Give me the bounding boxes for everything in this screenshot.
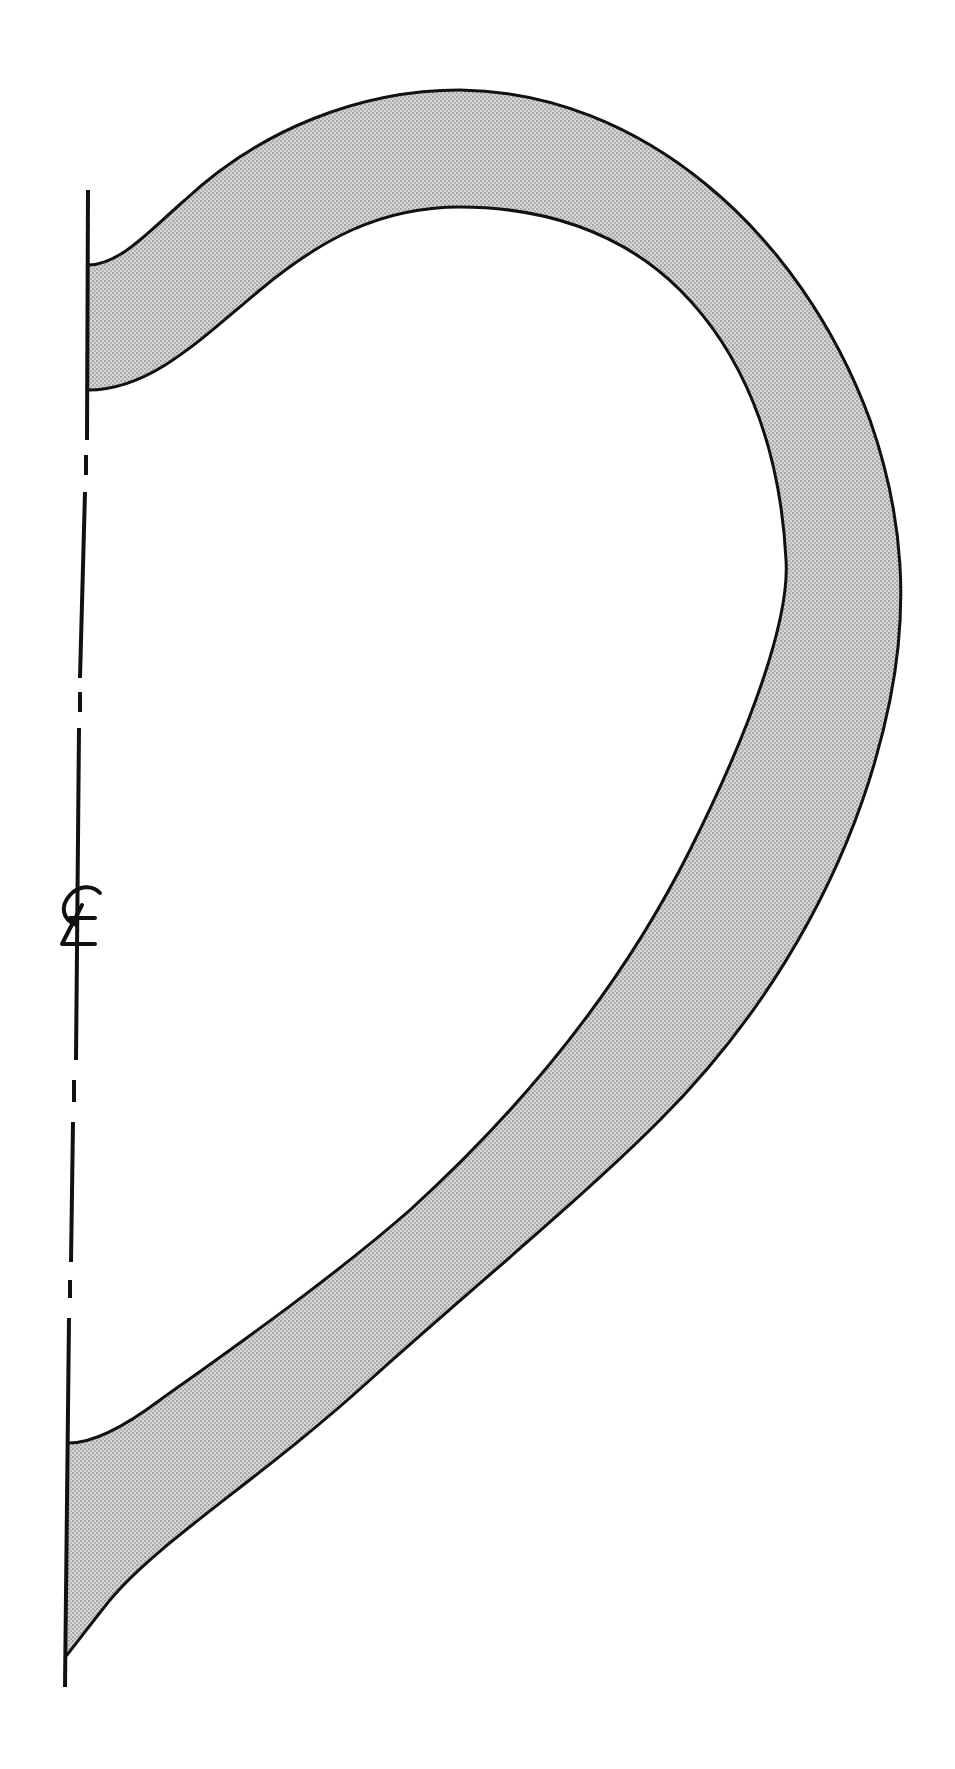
axis-segment: [80, 492, 85, 678]
axis-segment: [76, 728, 79, 1060]
axis-segment: [87, 190, 88, 440]
centerline-symbol-icon: [62, 887, 100, 944]
vessel-profile-drawing: [0, 0, 955, 1769]
wall-section: [67, 90, 901, 1655]
axis-segment: [71, 1122, 73, 1262]
wall-section-fill: [67, 90, 901, 1655]
